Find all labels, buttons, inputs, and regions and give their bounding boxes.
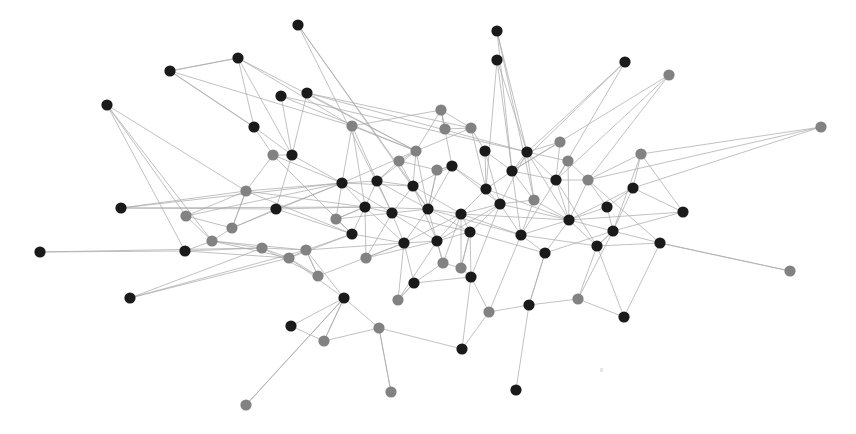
graph-node[interactable] <box>480 183 491 194</box>
graph-node[interactable] <box>437 257 448 268</box>
graph-node[interactable] <box>179 245 190 256</box>
graph-node[interactable] <box>521 146 532 157</box>
graph-node[interactable] <box>572 293 583 304</box>
graph-node[interactable] <box>270 203 281 214</box>
graph-node[interactable] <box>550 174 561 185</box>
graph-node[interactable] <box>301 87 312 98</box>
graph-node[interactable] <box>494 198 505 209</box>
graph-node[interactable] <box>318 335 329 346</box>
graph-node[interactable] <box>439 123 450 134</box>
graph-node[interactable] <box>618 311 629 322</box>
graph-node[interactable] <box>483 306 494 317</box>
graph-node[interactable] <box>491 25 502 36</box>
image-artifact-speck <box>600 368 603 372</box>
graph-node[interactable] <box>115 202 126 213</box>
graph-node[interactable] <box>515 229 526 240</box>
graph-node[interactable] <box>164 65 175 76</box>
graph-node[interactable] <box>338 292 349 303</box>
graph-node[interactable] <box>635 148 646 159</box>
graph-node[interactable] <box>286 149 297 160</box>
graph-node[interactable] <box>360 252 371 263</box>
graph-node[interactable] <box>422 203 433 214</box>
graph-node[interactable] <box>562 155 573 166</box>
graph-node[interactable] <box>479 145 490 156</box>
graph-node[interactable] <box>240 399 251 410</box>
graph-node[interactable] <box>619 56 630 67</box>
graph-node[interactable] <box>591 240 602 251</box>
graph-node[interactable] <box>226 222 237 233</box>
graph-node[interactable] <box>784 265 795 276</box>
graph-node[interactable] <box>464 226 475 237</box>
graph-node[interactable] <box>346 228 357 239</box>
network-graph-canvas <box>0 0 856 434</box>
graph-node[interactable] <box>398 237 409 248</box>
graph-node[interactable] <box>248 121 259 132</box>
graph-node[interactable] <box>312 270 323 281</box>
graph-node[interactable] <box>510 384 521 395</box>
graph-node[interactable] <box>601 201 612 212</box>
graph-node[interactable] <box>523 299 534 310</box>
graph-node[interactable] <box>34 246 45 257</box>
graph-node[interactable] <box>275 90 286 101</box>
graph-node[interactable] <box>431 164 442 175</box>
graph-node[interactable] <box>408 277 419 288</box>
graph-node[interactable] <box>407 180 418 191</box>
graph-node[interactable] <box>232 52 243 63</box>
graph-node[interactable] <box>627 182 638 193</box>
graph-node[interactable] <box>456 343 467 354</box>
graph-node[interactable] <box>607 225 618 236</box>
graph-node[interactable] <box>267 149 278 160</box>
graph-node[interactable] <box>330 213 341 224</box>
graph-node[interactable] <box>654 237 665 248</box>
graph-node[interactable] <box>101 99 112 110</box>
graph-node[interactable] <box>506 165 517 176</box>
graph-node[interactable] <box>386 207 397 218</box>
graph-node[interactable] <box>240 185 251 196</box>
graph-node[interactable] <box>455 262 466 273</box>
graph-node[interactable] <box>815 121 826 132</box>
network-graph-figure <box>0 0 856 434</box>
graph-node[interactable] <box>465 122 476 133</box>
graph-node[interactable] <box>393 155 404 166</box>
graph-node[interactable] <box>392 294 403 305</box>
graph-node[interactable] <box>554 136 565 147</box>
graph-node[interactable] <box>677 206 688 217</box>
graph-node[interactable] <box>528 194 539 205</box>
graph-background <box>0 0 856 434</box>
graph-node[interactable] <box>371 175 382 186</box>
graph-node[interactable] <box>373 322 384 333</box>
graph-node[interactable] <box>180 210 191 221</box>
graph-node[interactable] <box>359 201 370 212</box>
graph-node[interactable] <box>206 235 217 246</box>
graph-node[interactable] <box>455 208 466 219</box>
graph-node[interactable] <box>256 242 267 253</box>
graph-node[interactable] <box>300 244 311 255</box>
graph-node[interactable] <box>410 145 421 156</box>
graph-node[interactable] <box>491 54 502 65</box>
graph-node[interactable] <box>446 160 457 171</box>
graph-node[interactable] <box>563 214 574 225</box>
graph-node[interactable] <box>283 252 294 263</box>
graph-node[interactable] <box>663 69 674 80</box>
graph-node[interactable] <box>582 174 593 185</box>
graph-node[interactable] <box>124 292 135 303</box>
graph-node[interactable] <box>292 19 303 30</box>
graph-node[interactable] <box>465 271 476 282</box>
graph-node[interactable] <box>285 320 296 331</box>
graph-node[interactable] <box>336 177 347 188</box>
graph-node[interactable] <box>435 104 446 115</box>
graph-node[interactable] <box>431 235 442 246</box>
graph-node[interactable] <box>346 120 357 131</box>
graph-node[interactable] <box>385 386 396 397</box>
graph-node[interactable] <box>539 247 550 258</box>
